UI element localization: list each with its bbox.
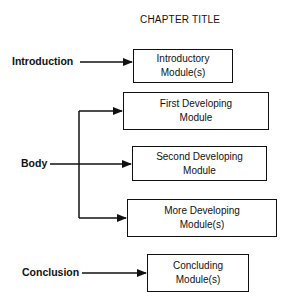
chapter-title: CHAPTER TITLE [140,14,220,25]
box-introductory-module: Introductory Module(s) [133,49,233,83]
box-line: First Developing [160,97,232,111]
label-introduction: Introduction [12,55,73,67]
box-line: Module(s) [157,66,210,80]
box-line: Module [156,164,243,178]
box-second-developing-module: Second Developing Module [132,146,267,181]
box-more-developing-module: More Developing Module(s) [127,199,277,237]
box-line: Module(s) [164,218,240,232]
box-line: More Developing [164,204,240,218]
box-line: Concluding [173,259,223,273]
label-body: Body [21,157,47,169]
box-line: Second Developing [156,150,243,164]
box-line: Introductory [157,52,210,66]
label-conclusion: Conclusion [22,266,79,278]
box-first-developing-module: First Developing Module [123,92,269,130]
box-concluding-module: Concluding Module(s) [147,254,249,292]
box-line: Module [160,111,232,125]
box-line: Module(s) [173,273,223,287]
